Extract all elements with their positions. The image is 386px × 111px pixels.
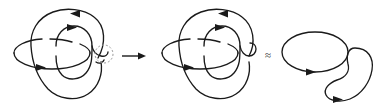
left-inner-loop-arrowhead xyxy=(67,24,77,31)
knot-diagram-figure: ≈ xyxy=(0,0,386,111)
panel-middle xyxy=(162,9,256,98)
middle-inner-loop xyxy=(204,26,240,79)
left-flat-ellipse-back-left xyxy=(14,39,42,53)
middle-flat-ellipse-back-mid xyxy=(198,39,220,42)
left-flat-ellipse-arrowhead xyxy=(36,64,46,71)
middle-flat-ellipse-front xyxy=(162,53,238,69)
middle-capped-strand xyxy=(240,43,256,56)
middle-outer-loop xyxy=(179,9,253,98)
panel-right xyxy=(282,32,372,103)
left-outer-loop xyxy=(31,9,104,98)
left-flat-ellipse-front xyxy=(14,53,90,69)
middle-flat-ellipse-back-right xyxy=(228,44,238,53)
transform-arrow xyxy=(122,53,146,60)
transform-arrow-head xyxy=(138,53,146,60)
right-round-circle-arrowhead xyxy=(306,69,316,76)
left-inner-loop xyxy=(56,26,92,79)
approximately-equal-sign: ≈ xyxy=(265,49,271,61)
middle-inner-loop-arrowhead xyxy=(215,24,225,31)
left-flat-ellipse-back-mid xyxy=(50,39,72,42)
left-outer-loop-arrowhead xyxy=(70,10,80,18)
figure-canvas: ≈ xyxy=(0,0,386,111)
right-kidney-curve xyxy=(325,48,372,101)
middle-flat-ellipse-back-left xyxy=(162,39,190,53)
left-flat-ellipse-back-right xyxy=(80,44,90,53)
middle-flat-ellipse-arrowhead xyxy=(184,64,194,71)
middle-outer-loop-arrowhead xyxy=(218,10,228,18)
right-kidney-curve-arrowhead xyxy=(333,96,343,103)
panel-left xyxy=(14,9,113,98)
right-round-circle xyxy=(282,32,348,72)
